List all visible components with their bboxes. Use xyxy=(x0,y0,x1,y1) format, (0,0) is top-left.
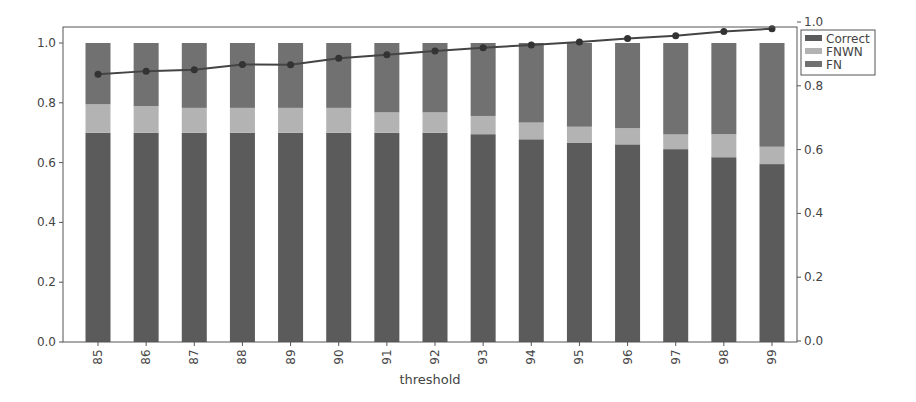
x-tick-label: 90 xyxy=(332,349,346,364)
line-marker xyxy=(720,28,727,35)
bar-segment-correct xyxy=(519,139,544,342)
x-tick-label: 98 xyxy=(717,349,731,364)
x-tick-label: 97 xyxy=(669,349,683,364)
line-marker xyxy=(143,68,150,75)
bar-segment-fn xyxy=(615,43,640,128)
x-tick-label: 96 xyxy=(621,349,635,364)
bar-segment-fn xyxy=(182,43,207,108)
y-right-tick-label: 0.6 xyxy=(804,143,823,157)
bar-segment-fn xyxy=(471,43,496,116)
bar-segment-correct xyxy=(278,133,303,342)
bar-segment-correct xyxy=(86,133,111,342)
line-marker xyxy=(383,51,390,58)
legend-swatch-fnwn xyxy=(805,48,822,54)
y-right-tick-label: 1.0 xyxy=(804,15,823,29)
legend-label-correct: Correct xyxy=(826,32,870,46)
bar-segment-fnwn xyxy=(663,134,688,149)
legend-swatch-fn xyxy=(805,61,822,67)
y-tick-label: 1.0 xyxy=(37,36,56,50)
bar-segment-correct xyxy=(471,134,496,342)
x-tick-label: 92 xyxy=(428,349,442,364)
legend-swatch-correct xyxy=(805,35,822,41)
line-marker xyxy=(528,41,535,48)
line-marker xyxy=(95,71,102,78)
bar-segment-fnwn xyxy=(374,112,399,132)
chart: 0.00.20.40.60.81.0 0.00.20.40.60.81.0 85… xyxy=(0,0,916,402)
x-tick-label: 91 xyxy=(380,349,394,364)
line-marker xyxy=(576,39,583,46)
x-tick-label: 93 xyxy=(476,349,490,364)
y-tick-label: 0.6 xyxy=(37,156,56,170)
y-axis-left: 0.00.20.40.60.81.0 xyxy=(37,36,63,349)
bar-segment-fn xyxy=(711,43,736,134)
line-marker xyxy=(239,61,246,68)
bar-segment-fn xyxy=(567,43,592,127)
y-right-tick-label: 0.8 xyxy=(804,79,823,93)
x-tick-label: 86 xyxy=(139,349,153,364)
legend-label-fnwn: FNWN xyxy=(826,45,863,59)
y-tick-label: 0.8 xyxy=(37,96,56,110)
bar-segment-fn xyxy=(326,43,351,108)
y-tick-label: 0.0 xyxy=(37,335,56,349)
bar-segment-fnwn xyxy=(230,108,255,133)
line-marker xyxy=(432,48,439,55)
line-marker xyxy=(335,55,342,62)
bar-segment-fnwn xyxy=(134,106,159,133)
y-tick-label: 0.4 xyxy=(37,215,56,229)
bar-segment-fn xyxy=(760,43,785,147)
bar-segment-fnwn xyxy=(471,116,496,134)
stacked-bars xyxy=(86,43,785,342)
line-marker xyxy=(287,61,294,68)
bar-segment-fnwn xyxy=(423,112,448,132)
x-tick-label: 87 xyxy=(187,349,201,364)
line-marker xyxy=(769,25,776,32)
bar-segment-fnwn xyxy=(567,127,592,143)
bar-segment-correct xyxy=(615,144,640,342)
bar-segment-fnwn xyxy=(182,108,207,133)
bar-segment-fn xyxy=(230,43,255,108)
bar-segment-correct xyxy=(663,149,688,342)
line-marker xyxy=(191,66,198,73)
line-marker xyxy=(672,32,679,39)
x-tick-label: 95 xyxy=(572,349,586,364)
bar-segment-correct xyxy=(230,133,255,342)
bar-segment-correct xyxy=(760,164,785,342)
x-tick-label: 85 xyxy=(91,349,105,364)
bar-segment-fnwn xyxy=(711,134,736,157)
bar-segment-fn xyxy=(519,43,544,123)
bar-segment-fnwn xyxy=(519,123,544,140)
legend: CorrectFNWNFN xyxy=(801,30,875,75)
bar-segment-correct xyxy=(711,157,736,342)
legend-label-fn: FN xyxy=(826,58,842,72)
bar-segment-correct xyxy=(326,133,351,342)
bar-segment-correct xyxy=(134,133,159,342)
line-marker xyxy=(624,35,631,42)
bar-segment-fnwn xyxy=(278,108,303,133)
line-marker xyxy=(480,44,487,51)
bar-segment-fnwn xyxy=(615,128,640,144)
bar-segment-fn xyxy=(278,43,303,108)
y-right-tick-label: 0.4 xyxy=(804,206,823,220)
y-right-tick-label: 0.0 xyxy=(804,334,823,348)
x-tick-label: 88 xyxy=(235,349,249,364)
bar-segment-fnwn xyxy=(86,104,111,132)
bar-segment-correct xyxy=(374,133,399,342)
x-tick-label: 89 xyxy=(284,349,298,364)
y-tick-label: 0.2 xyxy=(37,275,56,289)
x-axis-title: threshold xyxy=(399,372,460,387)
x-axis: 858687888990919293949596979899 xyxy=(91,342,779,365)
y-right-tick-label: 0.2 xyxy=(804,270,823,284)
bar-segment-correct xyxy=(567,143,592,342)
bar-segment-correct xyxy=(423,133,448,342)
x-tick-label: 94 xyxy=(524,349,538,364)
bar-segment-fn xyxy=(663,43,688,134)
x-tick-label: 99 xyxy=(765,349,779,364)
bar-segment-fnwn xyxy=(326,108,351,133)
bar-segment-fnwn xyxy=(760,147,785,164)
bar-segment-correct xyxy=(182,133,207,342)
